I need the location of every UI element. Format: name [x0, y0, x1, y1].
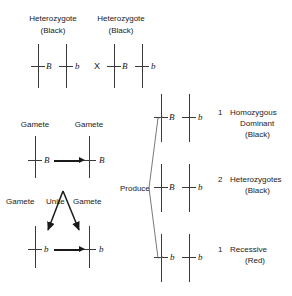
gamete-chromosome-bottom-right [89, 226, 90, 268]
parent-2-label-line1: Heterozygote [90, 14, 152, 24]
gamete-unite-left-label: Gamete [6, 197, 34, 207]
gamete-b-arrow-head [79, 246, 85, 252]
offspring-3-allele-left: b [170, 253, 175, 262]
parent-1-label-line1: Heterozygote [22, 14, 84, 24]
parent-2-locus-tick-left [107, 66, 121, 67]
gamete-top-right-allele-B: B [99, 156, 105, 165]
offspring-1-name-line2: Dominant [240, 119, 274, 130]
offspring-1-tick-left [154, 117, 168, 118]
offspring-1-name-line1: Homozygous [230, 108, 277, 119]
gamete-B-arrow-head [79, 157, 85, 163]
offspring-1-tick-right [182, 117, 196, 118]
offspring-3-allele-right: b [198, 253, 203, 262]
gamete-b-arrow-line [54, 249, 80, 251]
gamete-B-arrow-line [54, 160, 80, 162]
offspring-3-tick-left [154, 257, 168, 258]
offspring-1-chromosome-left [161, 94, 162, 142]
offspring-2-tick-right [182, 187, 196, 188]
offspring-1-allele-right: b [198, 113, 203, 122]
offspring-2-name-line1: Heterozygotes [230, 175, 282, 186]
gamete-chromosome-top-right [89, 136, 90, 178]
offspring-1-allele-left: B [169, 113, 175, 122]
genetics-cross-diagram: Heterozygote (Black) Heterozygote (Black… [0, 0, 292, 296]
parent-1-locus-tick-left [31, 66, 45, 67]
gamete-unite-center-label: Unite [46, 197, 65, 207]
gamete-top-left-allele-B: B [44, 156, 50, 165]
parent-2-allele-b: b [151, 62, 156, 71]
offspring-1-chromosome-right [189, 94, 190, 142]
parent-1-allele-B: B [46, 62, 52, 71]
offspring-3-count: 1 [218, 245, 222, 254]
offspring-2-allele-right: b [198, 183, 203, 192]
parent-2-locus-tick-right [135, 66, 149, 67]
offspring-1-phenotype: (Black) [245, 130, 270, 141]
produce-label: Produce [120, 184, 150, 193]
gamete-chromosome-bottom-left [35, 226, 36, 268]
gamete-top-left-label: Gamete [9, 120, 61, 130]
offspring-3-phenotype: (Red) [245, 256, 265, 267]
parent-2-allele-B: B [122, 62, 128, 71]
offspring-2-chromosome-right [189, 164, 190, 212]
gamete-bottom-left-allele-b: b [44, 245, 49, 254]
gamete-bottom-left-tick [28, 249, 42, 250]
parent-2-label-line2: (Black) [90, 26, 152, 36]
cross-symbol: X [94, 61, 100, 71]
gamete-top-right-label: Gamete [63, 120, 115, 130]
offspring-3-chromosome-right [189, 234, 190, 282]
offspring-1-count: 1 [218, 108, 222, 117]
offspring-3-name-line1: Recessive [230, 245, 267, 256]
gamete-top-left-tick [28, 160, 42, 161]
parent-1-allele-b: b [75, 62, 80, 71]
gamete-bottom-right-allele-b: b [99, 245, 104, 254]
offspring-2-tick-left [154, 187, 168, 188]
offspring-2-allele-left: B [169, 183, 175, 192]
offspring-2-count: 2 [218, 175, 222, 184]
gamete-chromosome-top-left [35, 136, 36, 178]
gamete-unite-right-label: Gamete [73, 197, 101, 207]
offspring-3-tick-right [182, 257, 196, 258]
offspring-2-chromosome-left [161, 164, 162, 212]
offspring-3-chromosome-left [161, 234, 162, 282]
offspring-2-phenotype: (Black) [245, 186, 270, 197]
parent-1-label-line2: (Black) [22, 26, 84, 36]
parent-1-locus-tick-right [59, 66, 73, 67]
